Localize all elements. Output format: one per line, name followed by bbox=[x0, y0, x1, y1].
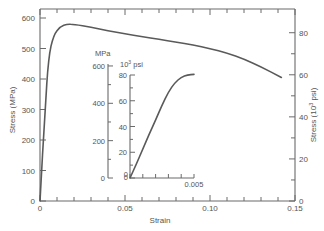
y-tick-label: 500 bbox=[22, 45, 36, 54]
inset-mpa-label: MPa bbox=[95, 49, 111, 58]
inset-psi-tick-label: 60 bbox=[119, 97, 127, 106]
y-tick-label: 0 bbox=[31, 197, 36, 206]
y2-tick-label: 60 bbox=[299, 71, 308, 80]
stress-strain-chart: 00.050.100.15010020030040050060002040608… bbox=[0, 0, 324, 231]
inset-psi-tick-label: 20 bbox=[119, 148, 127, 157]
inset-mpa-tick-label: 400 bbox=[92, 99, 105, 108]
x-tick-label: 0 bbox=[38, 204, 43, 213]
main-stress-strain-curve bbox=[40, 24, 281, 201]
inset-mpa-tick-label: 200 bbox=[92, 137, 105, 146]
inset-psi-label: 103 psi bbox=[120, 59, 143, 69]
y2-tick-label: 40 bbox=[299, 113, 308, 122]
y2-label-part: Stress (10 bbox=[309, 105, 318, 142]
y-tick-label: 200 bbox=[22, 136, 36, 145]
inset-psi-tick-label: 80 bbox=[119, 71, 127, 80]
y2-tick-label: 80 bbox=[299, 29, 308, 38]
inset-psi-tick-label: 0 bbox=[124, 170, 128, 179]
inset-mpa-tick-label: 0 bbox=[101, 174, 105, 183]
inset-plot: 00.0050200400600020406080 MPa 103 psi bbox=[92, 49, 203, 189]
inset-elastic-curve bbox=[130, 74, 194, 178]
y2-tick-label: 20 bbox=[299, 155, 308, 164]
x-axis-label: Strain bbox=[150, 216, 171, 225]
inset-mpa-tick-label: 600 bbox=[92, 62, 105, 71]
main-tick-labels: 00.050.100.15010020030040050060002040608… bbox=[22, 14, 309, 213]
inset-tick-labels: 00.0050200400600020406080 bbox=[92, 62, 203, 189]
y2-tick-label: 0 bbox=[299, 197, 304, 206]
y-tick-label: 300 bbox=[22, 106, 36, 115]
y-tick-label: 400 bbox=[22, 75, 36, 84]
inset-x-tick-label: 0.005 bbox=[185, 180, 204, 189]
x-tick-label: 0.10 bbox=[202, 204, 218, 213]
main-plot: 00.050.100.15010020030040050060002040608… bbox=[22, 9, 309, 213]
y-tick-label: 600 bbox=[22, 14, 36, 23]
main-ticks bbox=[40, 9, 295, 201]
y-tick-label: 100 bbox=[22, 167, 36, 176]
y2-axis-label: Stress (103 psi) bbox=[308, 87, 318, 142]
x-tick-label: 0.05 bbox=[117, 204, 133, 213]
inset-psi-tick-label: 40 bbox=[119, 123, 127, 132]
y-axis-label: Stress (MPa) bbox=[8, 86, 17, 133]
